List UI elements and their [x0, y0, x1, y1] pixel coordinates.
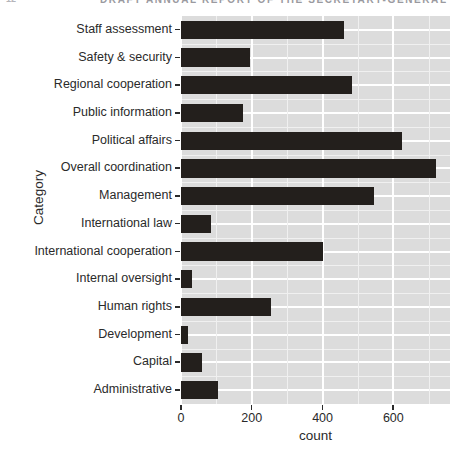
y-axis-tick-labels: Staff assessmentSafety & securityRegiona… — [0, 16, 172, 404]
gridline-horizontal-minor — [181, 265, 450, 266]
gridline-horizontal-major — [181, 361, 450, 363]
page-running-header: 12 DRAFT ANNUAL REPORT OF THE SECRETARY-… — [0, 0, 455, 10]
gridline-horizontal-minor — [181, 210, 450, 211]
y-axis-tick-label: International cooperation — [34, 245, 172, 258]
y-axis-tick-mark — [175, 278, 180, 280]
y-axis-tick-mark — [175, 223, 180, 225]
gridline-horizontal-minor — [181, 238, 450, 239]
gridline-horizontal-minor — [181, 376, 450, 377]
gridline-vertical-minor — [358, 16, 359, 404]
y-axis-tick-mark — [175, 57, 180, 59]
bar — [181, 326, 188, 344]
gridline-horizontal-major — [181, 334, 450, 336]
x-axis-tick-mark — [392, 405, 394, 410]
bar — [181, 381, 218, 399]
y-axis-tick-label: Development — [98, 328, 172, 341]
bar — [181, 159, 436, 177]
bar — [181, 242, 323, 260]
gridline-horizontal-minor — [181, 99, 450, 100]
gridline-horizontal-major — [181, 278, 450, 280]
page-folio-number: 12 — [6, 0, 16, 4]
gridline-vertical-minor — [216, 16, 217, 404]
x-axis-title: count — [181, 428, 450, 443]
bar — [181, 132, 402, 150]
y-axis-tick-mark — [175, 112, 180, 114]
y-axis-tick-mark — [175, 361, 180, 363]
y-axis-tick-label: Management — [99, 189, 172, 202]
gridline-horizontal-minor — [181, 293, 450, 294]
y-axis-tick-label: Administrative — [94, 383, 173, 396]
gridline-vertical-major — [392, 16, 394, 404]
y-axis-title: Category — [31, 138, 46, 258]
bar — [181, 48, 250, 66]
y-axis-tick-label: Overall coordination — [61, 161, 172, 174]
gridline-horizontal-minor — [181, 349, 450, 350]
bar — [181, 76, 352, 94]
bar — [181, 353, 202, 371]
y-axis-tick-label: Regional cooperation — [54, 78, 172, 91]
x-axis-tick-mark — [180, 405, 182, 410]
y-axis-tick-label: International law — [81, 217, 172, 230]
y-axis-tick-mark — [175, 167, 180, 169]
gridline-horizontal-minor — [181, 155, 450, 156]
y-axis-tick-mark — [175, 389, 180, 391]
gridline-vertical-minor — [429, 16, 430, 404]
y-axis-tick-mark — [175, 334, 180, 336]
y-axis-tick-mark — [175, 306, 180, 308]
x-axis-tick-label: 600 — [373, 411, 413, 425]
gridline-vertical-major — [251, 16, 253, 404]
running-header-text: DRAFT ANNUAL REPORT OF THE SECRETARY-GEN… — [100, 0, 448, 5]
y-axis-tick-mark — [175, 140, 180, 142]
y-axis-tick-label: Safety & security — [78, 51, 172, 64]
y-axis-tick-label: Staff assessment — [76, 23, 172, 36]
gridline-horizontal-major — [181, 223, 450, 225]
gridline-horizontal-minor — [181, 71, 450, 72]
gridline-horizontal-minor — [181, 182, 450, 183]
x-axis-tick-label: 400 — [303, 411, 343, 425]
y-axis-tick-mark — [175, 84, 180, 86]
y-axis-tick-label: Capital — [133, 355, 172, 368]
y-axis-tick-label: Internal oversight — [76, 272, 172, 285]
bar — [181, 104, 243, 122]
bar-chart-figure: 12 DRAFT ANNUAL REPORT OF THE SECRETARY-… — [0, 0, 455, 452]
y-axis-tick-mark — [175, 195, 180, 197]
y-axis-tick-label: Public information — [73, 106, 172, 119]
bar — [181, 215, 211, 233]
y-axis-tick-mark — [175, 251, 180, 253]
y-axis-tick-label: Human rights — [98, 300, 172, 313]
y-axis-tick-mark — [175, 29, 180, 31]
gridline-horizontal-major — [181, 389, 450, 391]
gridline-horizontal-minor — [181, 44, 450, 45]
gridline-vertical-minor — [287, 16, 288, 404]
y-axis-tick-label: Political affairs — [92, 134, 172, 147]
bar — [181, 270, 192, 288]
gridline-horizontal-minor — [181, 321, 450, 322]
x-axis-tick-mark — [251, 405, 253, 410]
x-axis-tick-mark — [322, 405, 324, 410]
plot-panel — [181, 16, 450, 404]
gridline-horizontal-minor — [181, 127, 450, 128]
x-axis-tick-label: 0 — [161, 411, 201, 425]
gridline-vertical-major — [322, 16, 324, 404]
bar — [181, 298, 271, 316]
bar — [181, 187, 374, 205]
bar — [181, 21, 344, 39]
x-axis-tick-label: 200 — [232, 411, 272, 425]
gridline-vertical-major — [180, 16, 182, 404]
